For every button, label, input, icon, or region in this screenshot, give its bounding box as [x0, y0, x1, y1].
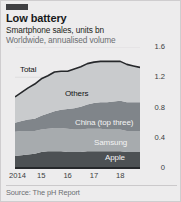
x-tick-label: 18	[116, 171, 124, 180]
chart-subtitle-secondary: Worldwide, annualised volume	[6, 35, 116, 45]
chart-subtitle-primary: Smartphone sales, units bn	[6, 25, 104, 35]
accent-tab	[6, 4, 28, 10]
y-tick-label: 0.8	[143, 103, 165, 112]
y-tick-label: 1.2	[143, 72, 165, 81]
x-axis: 201415161718	[15, 171, 150, 183]
y-tick-label: 1.6	[143, 42, 165, 51]
chart-card: Low battery Smartphone sales, units bn W…	[0, 0, 181, 202]
x-tick-label: 16	[63, 171, 71, 180]
page-title: Low battery	[6, 12, 67, 24]
footer-divider	[6, 185, 177, 186]
y-tick-label: 0.4	[143, 133, 165, 142]
series-label-apple: Apple	[105, 153, 125, 162]
source-note: Source: The pH Report	[6, 188, 80, 197]
y-axis: 00.40.81.21.6	[143, 47, 181, 169]
x-tick-label: 15	[37, 171, 45, 180]
series-label-china: China (top three)	[75, 118, 133, 127]
series-label-total: Total	[20, 65, 36, 74]
series-label-samsung: Samsung	[94, 138, 127, 147]
x-tick-label: 2014	[9, 171, 26, 180]
series-label-others: Others	[65, 89, 88, 98]
x-tick-label: 17	[90, 171, 98, 180]
